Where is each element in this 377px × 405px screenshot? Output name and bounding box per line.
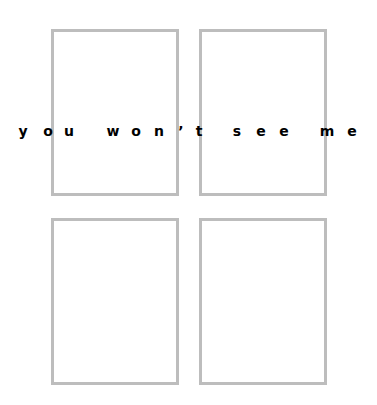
caption-letter: u: [64, 122, 74, 140]
caption-letter: o: [43, 122, 53, 140]
caption-letter: ’: [178, 122, 183, 140]
caption-letter: e: [347, 122, 357, 140]
caption-letter: e: [256, 122, 266, 140]
caption-letter: t: [196, 122, 203, 140]
box-top-right: [199, 29, 327, 196]
caption-letter: o: [131, 122, 141, 140]
caption-letter: n: [154, 122, 164, 140]
box-bottom-left: [51, 218, 179, 385]
caption-letter: w: [107, 122, 120, 140]
caption-letter: m: [320, 122, 335, 140]
caption-letter: e: [279, 122, 289, 140]
caption-letter: s: [233, 122, 241, 140]
caption-letter: y: [18, 122, 27, 140]
box-bottom-right: [199, 218, 327, 385]
box-top-left: [51, 29, 179, 196]
